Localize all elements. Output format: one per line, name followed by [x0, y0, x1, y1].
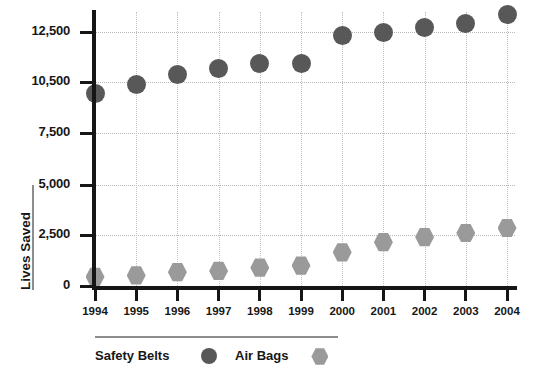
data-point — [333, 243, 352, 262]
data-point — [456, 14, 475, 33]
x-axis-tick-label: 2000 — [319, 305, 365, 317]
x-axis-tick — [176, 289, 179, 301]
data-point — [292, 256, 311, 275]
legend-swatch-circle-icon — [201, 348, 217, 364]
plot-area — [95, 12, 515, 286]
x-axis-tick — [382, 289, 385, 301]
gridline-vertical — [507, 12, 508, 286]
y-axis-title: Lives Saved — [18, 212, 33, 290]
x-axis-tick-label: 1994 — [72, 305, 118, 317]
data-point — [292, 54, 311, 73]
y-axis-tick — [80, 132, 93, 135]
x-axis-tick — [506, 289, 509, 301]
data-point — [209, 59, 228, 78]
data-point — [456, 224, 475, 243]
y-axis-tick — [80, 31, 93, 34]
legend-item-label: Safety Belts — [95, 348, 169, 363]
x-axis-tick — [341, 289, 344, 301]
data-point — [415, 228, 434, 247]
x-axis-tick-label: 1999 — [278, 305, 324, 317]
gridline-horizontal — [95, 133, 515, 134]
chart-legend: Safety BeltsAir Bags — [95, 344, 395, 370]
y-axis-tick — [80, 81, 93, 84]
x-axis-tick-label: 2002 — [402, 305, 448, 317]
y-axis-tick — [80, 234, 93, 237]
legend-swatch-hexagon-icon — [311, 348, 328, 365]
y-axis-tick — [80, 285, 93, 288]
x-axis-tick — [258, 289, 261, 301]
data-point — [374, 23, 393, 42]
y-axis-title-group: Lives Saved — [2, 140, 22, 300]
gridline-vertical — [219, 12, 220, 286]
x-axis-tick — [423, 289, 426, 301]
data-point — [127, 266, 146, 285]
x-axis-line — [92, 286, 517, 290]
y-axis-line — [92, 10, 96, 290]
data-point — [250, 54, 269, 73]
y-axis-tick-label: 12,500 — [0, 23, 70, 38]
data-point — [498, 5, 517, 24]
x-axis-tick-label: 2001 — [360, 305, 406, 317]
x-axis-tick-label: 1998 — [237, 305, 283, 317]
data-point — [209, 261, 228, 280]
data-point — [127, 75, 146, 94]
lives-saved-chart: 02,5005,0007,50010,50012,500 19941995199… — [0, 0, 540, 374]
gridline-horizontal — [95, 235, 515, 236]
x-axis-tick-label: 1996 — [154, 305, 200, 317]
x-axis-tick-label: 1997 — [196, 305, 242, 317]
y-axis-title-rule — [32, 185, 34, 290]
legend-item-label: Air Bags — [235, 348, 288, 363]
data-point — [250, 258, 269, 277]
data-point — [168, 65, 187, 84]
x-axis-tick — [464, 289, 467, 301]
gridline-vertical — [466, 12, 467, 286]
legend-divider — [95, 336, 338, 338]
x-axis-tick-label: 2004 — [484, 305, 530, 317]
data-point — [333, 26, 352, 45]
x-axis-tick-label: 1995 — [113, 305, 159, 317]
y-axis-tick — [80, 184, 93, 187]
x-axis-tick — [217, 289, 220, 301]
x-axis-tick — [94, 289, 97, 301]
x-axis-tick-label: 2003 — [443, 305, 489, 317]
gridline-vertical — [177, 12, 178, 286]
x-axis-tick — [300, 289, 303, 301]
y-axis-tick-label: 10,500 — [0, 73, 70, 88]
x-axis-tick — [135, 289, 138, 301]
gridline-horizontal — [95, 82, 515, 83]
gridline-vertical — [136, 12, 137, 286]
gridline-horizontal — [95, 32, 515, 33]
y-axis-tick-label: 7,500 — [0, 124, 70, 139]
data-point — [415, 18, 434, 37]
gridline-horizontal — [95, 185, 515, 186]
data-point — [168, 263, 187, 282]
